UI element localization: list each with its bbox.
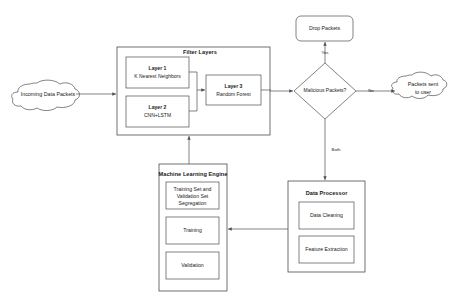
- drop-packets-box: [296, 16, 353, 41]
- packets-sent-cloud: [392, 72, 447, 98]
- incoming-packets-cloud: [12, 80, 80, 110]
- layer3-box: [206, 75, 261, 105]
- flowchart-diagram: Incoming Data Packets Filter Layers Laye…: [0, 0, 459, 302]
- layer1-box: [126, 57, 189, 88]
- segregation-box: [166, 182, 219, 209]
- validation-box: [166, 252, 219, 279]
- feature-extraction-box: [299, 236, 354, 263]
- data-cleaning-box: [299, 202, 354, 229]
- diagram-shapes-layer: [0, 0, 459, 302]
- malicious-packets-diamond: [294, 63, 356, 119]
- layer2-box: [126, 96, 189, 127]
- training-box: [166, 217, 219, 244]
